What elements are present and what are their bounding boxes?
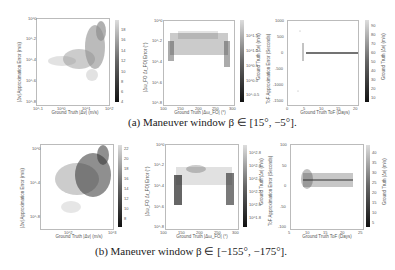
plot-area-b1 (40, 144, 114, 230)
cbar-tick: 30 (371, 77, 375, 82)
x-axis-label: Ground Truth |Δω_FO| (°) (167, 234, 237, 239)
cbar-tick: 22 (124, 146, 128, 151)
ytick: 10^-6 (152, 80, 162, 85)
ytick: 10^0 (154, 18, 163, 23)
xtick: 100 (160, 230, 167, 235)
cbar-tick: 10 (372, 210, 376, 215)
cbar-tick: 10 (124, 206, 128, 211)
plot-area-a2 (163, 20, 235, 106)
cbar-tick: 14 (121, 48, 125, 53)
cbar-tick: 16 (124, 176, 128, 181)
cbar-tick: 18 (124, 166, 128, 171)
y-axis-label: |Δv| Approximation Error (m/s) (20, 168, 25, 228)
xtick: 5 (288, 230, 290, 235)
plot-area-a3 (287, 20, 359, 106)
ytick: 500 (277, 34, 284, 39)
scatter-points-a3 (288, 21, 358, 105)
ytick: 10^-2 (26, 36, 36, 41)
scatter-points-a1 (37, 19, 109, 105)
caption-b: (b) Maneuver window β ∈ [−155°, −175°]. (95, 245, 287, 258)
y-axis-label: |Δω_FO Δr_FO| Error (°) (143, 43, 148, 92)
ytick: 10^0 (32, 146, 41, 151)
ytick: 10^-8 (26, 99, 36, 104)
colorbar-label: Ground Truth |Δv| (m/s) (382, 158, 387, 205)
x-axis-label: Ground Truth |Δω_FO| (°) (165, 110, 235, 115)
cbar-tick: 20 (124, 156, 128, 161)
cbar-tick: 30 (372, 170, 376, 175)
cbar-tick: 14 (124, 186, 128, 191)
cbar-tick: 8 (124, 216, 126, 221)
ytick: 0 (284, 183, 286, 188)
ytick: 10^-2 (152, 38, 162, 43)
ytick: 100 (280, 142, 287, 147)
x-axis-label: Ground Truth ToF (Days) (292, 234, 362, 239)
ytick: 10^-4 (26, 57, 36, 62)
cbar-tick: 40 (372, 150, 376, 155)
cbar-tick: 20 (372, 190, 376, 195)
ytick: -50 (280, 204, 286, 209)
caption-a: (a) Maneuver window β ∈ [15°, −5°]. (128, 116, 297, 129)
plot-area-b3 (290, 144, 364, 230)
cbar-tick: 12 (121, 58, 125, 63)
cbar-tick: 40 (371, 68, 375, 73)
colorbar-a3 (365, 20, 369, 102)
colorbar-label: Ground Truth |Δv| (m/s) (381, 33, 386, 80)
ytick: 50 (282, 163, 286, 168)
ytick: 10^-2 (154, 162, 164, 167)
cbar-tick: 18 (121, 27, 125, 32)
colorbar-label: Ground Truth |Δv| (m/s) (256, 33, 261, 80)
ytick: 10^-4 (154, 183, 164, 188)
cbar-tick: 10^2.8 (249, 150, 261, 155)
y-axis-label: |Δω_FO Δr_FO| Error (°) (145, 167, 150, 216)
ytick: -1500 (273, 98, 283, 103)
ytick: 10^-8 (152, 100, 162, 105)
ytick: 1000 (275, 18, 284, 23)
colorbar-label: Ground Truth |Δv| (m/s) (259, 158, 264, 205)
colorbar-a2 (240, 20, 244, 102)
cbar-tick: 10^-0.5 (246, 92, 259, 97)
plot-area-b2 (165, 144, 239, 230)
ytick: 10^-4 (152, 59, 162, 64)
colorbar-b2 (243, 145, 247, 227)
cbar-tick: 16 (121, 37, 125, 42)
cbar-tick: 10 (121, 69, 125, 74)
ytick: 10^-8 (30, 214, 40, 219)
y-axis-label: ToF Approximation Error (Seconds) (268, 156, 273, 226)
cbar-tick: 5 (372, 220, 374, 225)
plot-area-a1 (36, 18, 110, 106)
cbar-tick: 6 (121, 89, 123, 94)
scatter-points-b3 (291, 145, 363, 229)
colorbar-a1 (115, 20, 119, 102)
cbar-tick: 15 (372, 200, 376, 205)
cbar-tick: 70 (371, 41, 375, 46)
cbar-tick: 25 (372, 180, 376, 185)
cbar-tick: 35 (372, 160, 376, 165)
ytick: 10^-4 (30, 180, 40, 185)
colorbar-b1 (118, 145, 122, 227)
ytick: 10^0 (156, 142, 165, 147)
scatter-points-a2 (164, 21, 234, 105)
ytick: 0 (281, 50, 283, 55)
cbar-tick: 20 (371, 86, 375, 91)
cbar-tick: 10^1.8 (249, 215, 261, 220)
ytick: 10^-8 (154, 224, 164, 229)
cbar-tick: 8 (121, 79, 123, 84)
x-axis-label: Ground Truth ToF (Days) (290, 110, 360, 115)
cbar-tick: 12 (124, 196, 128, 201)
scatter-points-b2 (166, 145, 238, 229)
ytick: -500 (275, 66, 283, 71)
ytick: -100 (278, 224, 286, 229)
cbar-tick: 90 (371, 23, 375, 28)
cbar-tick: 50 (371, 59, 375, 64)
xtick: 0 (286, 106, 288, 111)
scatter-points-b1 (41, 145, 113, 229)
ytick: -1000 (273, 82, 283, 87)
cbar-tick: 4 (121, 99, 123, 104)
y-axis-label: |Δv| Approximation Error (m/s) (17, 42, 22, 102)
colorbar-b3 (366, 145, 370, 227)
cbar-tick: 60 (371, 50, 375, 55)
ytick: 10^-6 (154, 204, 164, 209)
x-axis-label: Ground Truth |Δv| (m/s) (44, 234, 114, 239)
y-axis-label: ToF Approximation Error (Seconds) (266, 34, 271, 104)
ytick: 10^0 (28, 16, 37, 21)
